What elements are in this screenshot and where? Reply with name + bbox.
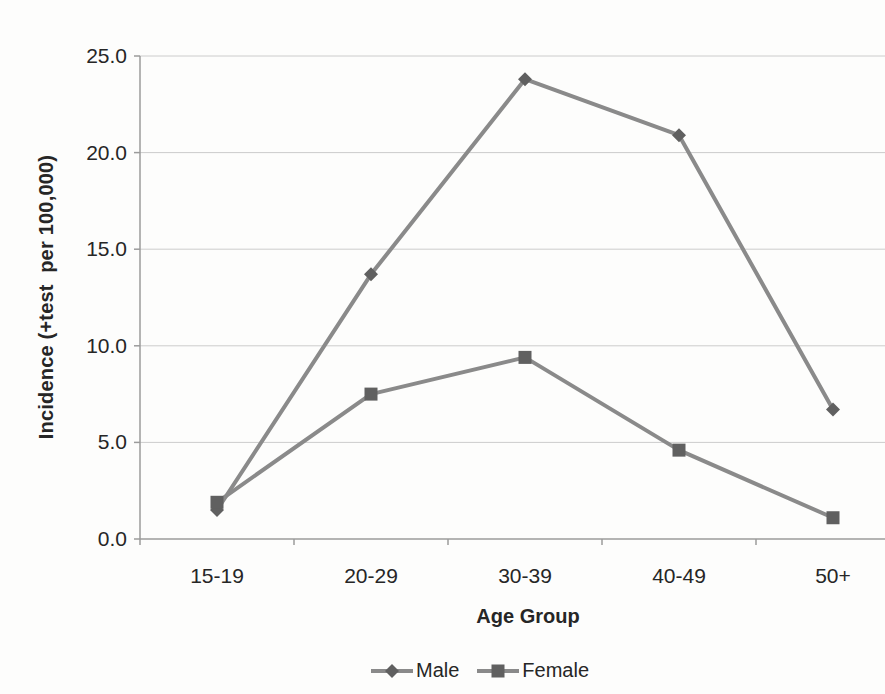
y-tick-label: 15.0 [86, 237, 127, 260]
male-series-marker-icon [371, 663, 413, 679]
y-tick-label: 20.0 [86, 141, 127, 164]
x-axis-title: Age Group [476, 605, 579, 628]
y-axis-title: Incidence (+test per 100,000) [35, 155, 58, 439]
legend-item-female: Female [477, 659, 589, 682]
legend-item-male: Male [371, 659, 459, 682]
female-data-point-marker [827, 511, 840, 524]
male-series-line [217, 79, 833, 510]
y-tick-label: 0.0 [98, 527, 127, 550]
y-tick-label: 25.0 [86, 44, 127, 67]
x-tick-label: 50+ [815, 564, 851, 587]
female-series-line [217, 357, 833, 517]
legend-label-male: Male [416, 659, 459, 682]
x-tick-label: 30-39 [498, 564, 552, 587]
legend: Male Female [371, 659, 589, 682]
female-data-point-marker [365, 388, 378, 401]
female-series-marker-icon [477, 663, 519, 679]
x-tick-label: 20-29 [344, 564, 398, 587]
plot-area: 0.05.010.015.020.025.015-1920-2930-3940-… [0, 0, 885, 694]
legend-label-female: Female [522, 659, 589, 682]
x-tick-label: 15-19 [190, 564, 244, 587]
female-data-point-marker [211, 496, 224, 509]
y-tick-label: 5.0 [98, 430, 127, 453]
female-data-point-marker [673, 444, 686, 457]
y-tick-label: 10.0 [86, 334, 127, 357]
x-tick-label: 40-49 [652, 564, 706, 587]
female-data-point-marker [519, 351, 532, 364]
chart-container: 0.05.010.015.020.025.015-1920-2930-3940-… [0, 0, 885, 694]
